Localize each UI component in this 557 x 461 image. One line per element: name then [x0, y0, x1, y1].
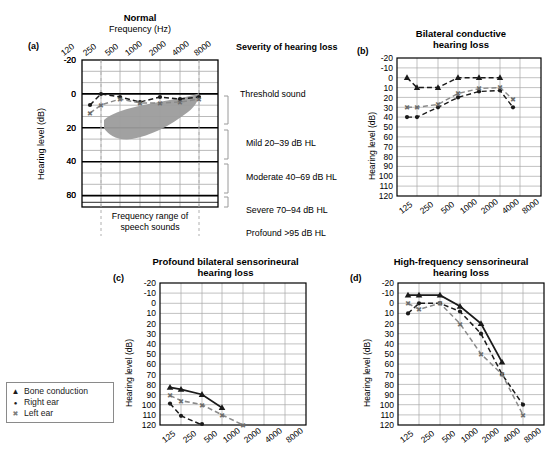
svg-text:✖: ✖ — [178, 397, 184, 406]
panel-d-ytick: 100 — [366, 401, 394, 409]
svg-text:✖: ✖ — [137, 100, 143, 108]
panel-d-ytick: 60 — [366, 360, 394, 368]
panel-b-ytick: 90 — [367, 162, 393, 170]
panel-b-ytick: 70 — [367, 143, 393, 151]
panel-d-ytick: 110 — [366, 411, 394, 419]
cross-marker-icon: ✖ — [11, 410, 20, 418]
panel-b: Bilateral conductive hearing loss (b) He… — [355, 0, 557, 250]
svg-text:✖: ✖ — [497, 83, 503, 92]
panel-b-ytick: 10 — [367, 84, 393, 92]
panel-c-ytick: 40 — [128, 340, 156, 348]
severity-item-moderate: Moderate 40–69 dB HL — [246, 172, 337, 182]
svg-text:✖: ✖ — [196, 96, 202, 104]
panel-a-ytick-0: 0 — [48, 90, 76, 98]
svg-text:✖: ✖ — [157, 100, 163, 108]
legend-item-left-ear: ✖ Left ear — [11, 408, 107, 419]
severity-item-profound: Profound >95 dB HL — [246, 228, 326, 238]
panel-d-ytick: 10 — [366, 309, 394, 317]
panel-c-ytick: 30 — [128, 330, 156, 338]
panel-a-ytick-80: 80 — [50, 191, 76, 199]
panel-d-ytick: -10 — [366, 289, 394, 297]
legend-item-bone-conduction: ▲ Bone conduction — [11, 386, 107, 397]
severity-item-mild: Mild 20–39 dB HL — [246, 138, 316, 148]
panel-b-ytick: 20 — [367, 94, 393, 102]
panel-d-ytick: 70 — [366, 371, 394, 379]
panel-c-ytick: 120 — [128, 421, 156, 429]
panel-d-ytick: 90 — [366, 391, 394, 399]
svg-text:✖: ✖ — [240, 421, 246, 430]
panel-a-ytick-40: 40 — [48, 157, 76, 165]
panel-c-ytick: 50 — [128, 350, 156, 358]
panel-c-ytick: 20 — [128, 320, 156, 328]
svg-text:✖: ✖ — [405, 299, 411, 308]
svg-text:✖: ✖ — [404, 103, 410, 112]
panel-d-ytick: 120 — [366, 421, 394, 429]
panel-d-ytick: 50 — [366, 350, 394, 358]
svg-text:✖: ✖ — [499, 370, 505, 379]
panel-b-ytick: 60 — [367, 133, 393, 141]
speech-range-caption-line2: speech sounds — [100, 222, 200, 233]
legend-label: Bone conduction — [24, 386, 88, 397]
panel-b-ytick: 50 — [367, 123, 393, 131]
panel-d-ytick: 30 — [366, 330, 394, 338]
panel-c-ytick: 110 — [128, 411, 156, 419]
figure-legend: ▲ Bone conduction ● Right ear ✖ Left ear — [6, 382, 114, 423]
panel-c-ytick: 100 — [128, 401, 156, 409]
svg-text:✖: ✖ — [435, 100, 441, 109]
svg-text:✖: ✖ — [416, 305, 422, 314]
panel-b-ytick: 80 — [367, 153, 393, 161]
svg-text:✖: ✖ — [98, 102, 104, 110]
panel-b-ytick: 120 — [367, 192, 393, 200]
svg-text:✖: ✖ — [437, 299, 443, 308]
severity-item-threshold: Threshold sound — [240, 89, 306, 99]
panel-b-ytick: -20 — [367, 54, 393, 62]
svg-text:✖: ✖ — [414, 103, 420, 112]
legend-label: Left ear — [24, 408, 53, 419]
svg-text:✖: ✖ — [177, 99, 183, 107]
svg-text:✖: ✖ — [219, 411, 225, 420]
panel-c-ytick: 10 — [128, 309, 156, 317]
panel-c-ytick: 90 — [128, 391, 156, 399]
panel-d-ytick: -20 — [366, 279, 394, 287]
panel-a-ytick-20: 20 — [48, 124, 76, 132]
panel-c-ytick: 70 — [128, 371, 156, 379]
svg-text:✖: ✖ — [167, 391, 173, 400]
triangle-marker-icon: ▲ — [11, 388, 20, 396]
severity-heading: Severity of hearing loss — [236, 42, 338, 52]
panel-c-ytick: -10 — [128, 289, 156, 297]
svg-text:✖: ✖ — [457, 320, 463, 329]
svg-text:✖: ✖ — [476, 84, 482, 93]
svg-text:✖: ✖ — [87, 110, 93, 118]
svg-text:✖: ✖ — [478, 350, 484, 359]
panel-c-ytick: 80 — [128, 381, 156, 389]
circle-marker-icon: ● — [11, 399, 20, 407]
svg-text:✖: ✖ — [520, 411, 526, 420]
speech-range-caption-line1: Frequency range of — [100, 211, 200, 222]
panel-b-ytick: 40 — [367, 113, 393, 121]
panel-c-ytick: -20 — [128, 279, 156, 287]
svg-text:✖: ✖ — [199, 401, 205, 410]
panel-b-ytick: -10 — [367, 64, 393, 72]
svg-text:✖: ✖ — [455, 89, 461, 98]
panel-c: Profound bilateral sensorineural hearing… — [110, 255, 325, 461]
panel-d-ytick: 80 — [366, 381, 394, 389]
panel-c-ytick: 0 — [128, 299, 156, 307]
panel-d-ytick: 40 — [366, 340, 394, 348]
panel-c-ytick: 60 — [128, 360, 156, 368]
legend-item-right-ear: ● Right ear — [11, 397, 107, 408]
panel-a-ytick-neg20: -20 — [48, 56, 76, 64]
svg-text:✖: ✖ — [117, 96, 123, 104]
panel-d: High-frequency sensorineural hearing los… — [340, 255, 557, 461]
panel-b-ytick: 0 — [367, 74, 393, 82]
panel-b-ytick: 110 — [367, 182, 393, 190]
panel-b-ytick: 30 — [367, 104, 393, 112]
panel-d-ytick: 0 — [366, 299, 394, 307]
panel-b-ytick: 100 — [367, 172, 393, 180]
severity-item-severe: Severe 70–94 dB HL — [246, 205, 328, 215]
panel-d-ytick: 20 — [366, 320, 394, 328]
svg-text:✖: ✖ — [510, 95, 516, 104]
legend-label: Right ear — [24, 397, 59, 408]
